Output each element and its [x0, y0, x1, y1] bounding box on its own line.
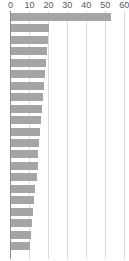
x-tick-label: 50	[100, 0, 110, 10]
bar	[11, 116, 41, 124]
bar	[11, 36, 48, 44]
gridline	[105, 11, 106, 259]
horizontal-bar-chart: 0102030405060	[0, 0, 129, 261]
bar	[11, 24, 49, 32]
bar	[11, 162, 38, 170]
bar	[11, 70, 45, 78]
gridline	[124, 11, 125, 259]
x-tick-label: 60	[119, 0, 129, 10]
bar	[11, 82, 44, 90]
bar	[11, 59, 46, 67]
bar	[11, 13, 111, 21]
x-tick-label: 10	[24, 0, 34, 10]
bar	[11, 150, 38, 158]
bar	[11, 128, 40, 136]
y-axis-line	[10, 11, 11, 259]
gridline	[86, 11, 87, 259]
bar	[11, 105, 42, 113]
bar	[11, 208, 33, 216]
bar	[11, 242, 30, 250]
x-tick-label: 0	[8, 0, 13, 10]
bar	[11, 196, 34, 204]
x-tick-label: 40	[81, 0, 91, 10]
bar	[11, 185, 35, 193]
bar	[11, 219, 32, 227]
x-tick-label: 20	[43, 0, 53, 10]
gridline	[48, 11, 49, 259]
bar	[11, 139, 39, 147]
bar	[11, 231, 31, 239]
gridline	[67, 11, 68, 259]
bar	[11, 173, 37, 181]
x-tick-label: 30	[62, 0, 72, 10]
bar	[11, 93, 43, 101]
bar	[11, 47, 47, 55]
